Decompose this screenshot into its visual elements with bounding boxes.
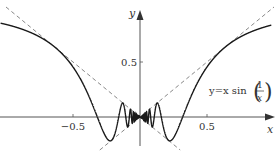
x-tick-label: −0.5	[61, 121, 85, 132]
dashed-line-y-equals-x	[100, 7, 274, 150]
dashed-line-y-equals-neg-x	[6, 7, 180, 150]
curve-x-sin-1-over-x	[1, 23, 272, 141]
x-axis-arrow-icon	[265, 114, 275, 121]
y-tick-label: 0.5	[121, 57, 137, 68]
fraction-numerator: 1	[257, 80, 263, 90]
y-axis-label: y	[128, 7, 136, 20]
x-tick-label: 0.5	[199, 121, 215, 132]
function-label: y=x sin ( 1 x )	[208, 79, 273, 104]
x-axis-label: x	[267, 123, 274, 136]
function-plot: −0.50.50.5 x y y=x sin ( 1 x )	[0, 0, 275, 156]
paren-right-icon: )	[264, 79, 273, 104]
y-axis-arrow-icon	[137, 10, 144, 20]
fraction-denominator: x	[257, 93, 262, 103]
function-label-prefix: y=x sin	[208, 85, 247, 96]
